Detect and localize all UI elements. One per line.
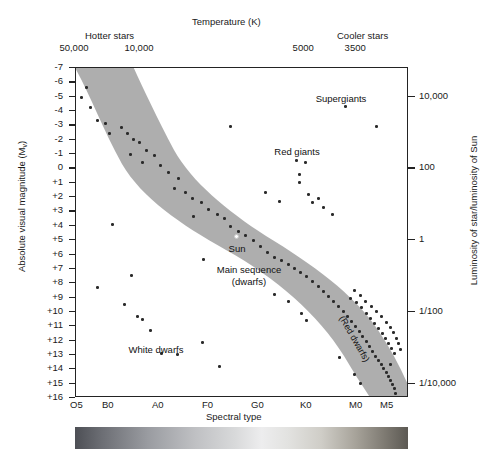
star-point [380, 315, 383, 318]
star-point [331, 213, 334, 216]
star-point [337, 305, 340, 308]
star-point [364, 300, 367, 303]
luminosity-tick [408, 239, 415, 240]
magnitude-tick-label-+2: +2 [29, 190, 63, 201]
annotation-supergiants: Supergiants [316, 93, 367, 104]
star-point [153, 154, 156, 157]
star-point [371, 350, 374, 353]
star-point [392, 331, 395, 334]
left-axis-title-text: Absolute visual magnitude (M [16, 147, 27, 272]
star-point [397, 342, 400, 345]
star-point [159, 164, 162, 167]
temperature-tick-label: 3500 [345, 42, 366, 53]
star-point [381, 332, 384, 335]
star-point [370, 305, 373, 308]
star-point [89, 106, 92, 109]
star-point [338, 356, 341, 359]
magnitude-tick-label-+14: +14 [29, 362, 63, 373]
star-point [387, 375, 390, 378]
magnitude-tick-label-+13: +13 [29, 348, 63, 359]
star-point [300, 312, 303, 315]
star-point [200, 201, 203, 204]
spectral-tick-label-F0: F0 [202, 399, 213, 410]
star-point [298, 181, 301, 184]
star-point [266, 251, 269, 254]
hotter-stars-label: Hotter stars [85, 30, 134, 41]
star-point [273, 293, 276, 296]
star-point [287, 263, 290, 266]
magnitude-tick-label--2: -2 [29, 133, 63, 144]
star-point [126, 132, 129, 135]
star-point [359, 294, 362, 297]
left-axis-title: Absolute visual magnitude (Mv) [16, 121, 29, 291]
temperature-tick-label: 50,000 [59, 42, 88, 53]
star-point [287, 300, 290, 303]
spectral-tick-label-O5: O5 [70, 399, 83, 410]
star-point [138, 141, 141, 144]
star-point [304, 161, 307, 164]
star-point [322, 206, 325, 209]
luminosity-tick-label: 1 [419, 233, 424, 244]
star-point [375, 310, 378, 313]
star-point [141, 161, 144, 164]
magnitude-tick-label-+8: +8 [29, 276, 63, 287]
star-point [201, 341, 204, 344]
sun-marker [234, 234, 239, 239]
star-point [237, 230, 240, 233]
star-point [327, 295, 330, 298]
magnitude-tick-label-+12: +12 [29, 334, 63, 345]
star-point [184, 191, 187, 194]
star-point [374, 355, 377, 358]
star-point [216, 213, 219, 216]
star-point [192, 215, 195, 218]
star-point [369, 317, 372, 320]
star-point [344, 105, 347, 108]
star-point [368, 345, 371, 348]
magnitude-tick-label--6: -6 [29, 75, 63, 86]
hr-diagram-figure: Temperature (K) Hotter stars Cooler star… [0, 0, 481, 453]
star-point [244, 234, 247, 237]
star-point [173, 187, 176, 190]
star-point [389, 326, 392, 329]
luminosity-tick-label: 1/100 [419, 305, 443, 316]
magnitude-tick-label--7: -7 [29, 61, 63, 72]
magnitude-tick-label-+3: +3 [29, 204, 63, 215]
star-point [223, 217, 226, 220]
magnitude-tick-label-+4: +4 [29, 219, 63, 230]
star-point [96, 119, 99, 122]
top-axis-title: Temperature (K) [192, 16, 261, 27]
star-point [387, 342, 390, 345]
star-point [307, 193, 310, 196]
star-point [317, 285, 320, 288]
star-point [359, 382, 362, 385]
annotation-white-dwarfs: White dwarfs [129, 344, 184, 355]
star-point [353, 289, 356, 292]
star-point [299, 271, 302, 274]
star-point [385, 371, 388, 374]
star-point [380, 363, 383, 366]
annotation-main-sequence: Main sequence [217, 264, 281, 275]
star-point [293, 267, 296, 270]
star-point [382, 367, 385, 370]
star-point [273, 256, 276, 259]
star-point [108, 132, 111, 135]
star-point [393, 387, 396, 390]
star-point [332, 300, 335, 303]
luminosity-tick [408, 383, 415, 384]
star-point [120, 126, 123, 129]
star-point [354, 325, 357, 328]
star-point [85, 86, 88, 89]
star-point [305, 275, 308, 278]
star-point [394, 392, 397, 395]
magnitude-tick-label-+11: +11 [29, 319, 63, 330]
cooler-stars-label: Cooler stars [337, 30, 388, 41]
plot-clip: SupergiantsRed giantsSunMain sequence(dw… [76, 68, 407, 396]
star-point [129, 153, 132, 156]
star-point [218, 365, 221, 368]
star-point [130, 274, 133, 277]
right-axis-title: Luminosity of star/luminosity of Sun [468, 116, 479, 306]
luminosity-tick-label: 10,000 [419, 90, 448, 101]
star-point [229, 125, 232, 128]
star-point [80, 96, 83, 99]
star-point [191, 197, 194, 200]
